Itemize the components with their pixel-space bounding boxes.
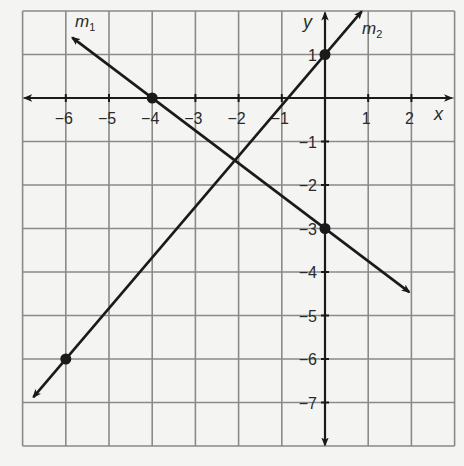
x-tick-label: −4 (141, 110, 159, 127)
y-axis-label: y (301, 12, 313, 32)
data-lines: m1m2 (33, 11, 409, 397)
line-m2 (33, 11, 361, 397)
y-tick-label: −3 (299, 221, 317, 238)
y-tick-label: −6 (299, 351, 317, 368)
coordinate-plane: −6−5−4−3−2−1121−1−2−3−4−5−6−7 m1m2 x y (0, 0, 464, 466)
point-m1 (320, 223, 331, 234)
x-tick-label: −5 (98, 110, 116, 127)
point-m2 (320, 49, 331, 60)
x-axis-label: x (433, 104, 444, 124)
point-m2 (60, 354, 71, 365)
y-tick-label: −7 (299, 395, 317, 412)
y-tick-label: −2 (299, 177, 317, 194)
label-m2: m2 (362, 19, 382, 40)
y-tick-label: −4 (299, 264, 317, 281)
x-tick-label: −1 (271, 110, 289, 127)
x-tick-label: −6 (55, 110, 73, 127)
y-tick-label: 1 (308, 47, 317, 64)
grid (23, 11, 455, 446)
line-m1 (72, 38, 409, 292)
x-tick-label: 2 (405, 110, 414, 127)
label-m1: m1 (75, 12, 95, 33)
point-m1 (147, 93, 158, 104)
x-tick-label: 1 (362, 110, 371, 127)
y-tick-label: −1 (299, 134, 317, 151)
x-tick-label: −2 (227, 110, 245, 127)
y-tick-label: −5 (299, 308, 317, 325)
